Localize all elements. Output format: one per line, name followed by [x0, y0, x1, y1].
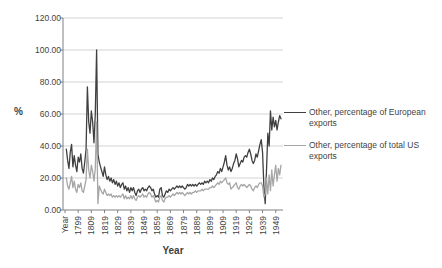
legend-item-us-exports: Other, percentage of total US exports [284, 140, 440, 161]
svg-text:1889: 1889 [192, 216, 202, 235]
svg-text:40.00: 40.00 [40, 141, 62, 151]
y-axis-title: % [14, 106, 23, 117]
svg-text:1899: 1899 [205, 216, 215, 235]
svg-text:1799: 1799 [73, 216, 83, 235]
svg-text:80.00: 80.00 [40, 77, 62, 87]
svg-text:1849: 1849 [139, 216, 149, 235]
y-axis-tick-labels: 0.0020.0040.0060.0080.00100.00120.00 [35, 13, 63, 215]
svg-text:1909: 1909 [218, 216, 228, 235]
svg-text:1879: 1879 [179, 216, 189, 235]
legend-line-swatch-us [284, 145, 306, 146]
data-series-lines [66, 50, 281, 204]
chart-container[interactable]: 0.0020.0040.0060.0080.00100.00120.00 Yea… [0, 0, 442, 268]
x-axis-title: Year [63, 245, 283, 256]
svg-text:1829: 1829 [113, 216, 123, 235]
svg-text:120.00: 120.00 [35, 13, 61, 23]
svg-text:1839: 1839 [126, 216, 136, 235]
legend: Other, percentage of European exports Ot… [284, 107, 440, 173]
x-axis-tick-labels: Year179918091819182918391849185918691879… [60, 210, 281, 235]
legend-item-european-exports: Other, percentage of European exports [284, 107, 440, 128]
svg-text:1859: 1859 [152, 216, 162, 235]
svg-text:1919: 1919 [231, 216, 241, 235]
legend-line-swatch-european [284, 112, 306, 113]
svg-text:1949: 1949 [271, 216, 281, 235]
svg-text:0.00: 0.00 [44, 205, 61, 215]
legend-label-european: Other, percentage of European exports [309, 107, 439, 128]
svg-text:100.00: 100.00 [35, 45, 61, 55]
svg-text:1809: 1809 [86, 216, 96, 235]
svg-text:Year: Year [60, 216, 70, 233]
legend-label-us: Other, percentage of total US exports [309, 140, 439, 161]
svg-text:1939: 1939 [258, 216, 268, 235]
svg-text:20.00: 20.00 [40, 173, 62, 183]
svg-text:1929: 1929 [244, 216, 254, 235]
svg-text:1869: 1869 [165, 216, 175, 235]
svg-text:1819: 1819 [100, 216, 110, 235]
svg-text:60.00: 60.00 [40, 109, 62, 119]
